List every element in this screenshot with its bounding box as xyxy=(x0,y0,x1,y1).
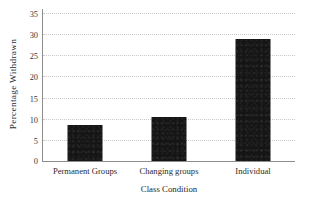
bar-changing-groups[interactable] xyxy=(152,117,187,161)
x-tick-label-changing-groups: Changing groups xyxy=(127,166,211,176)
y-tick-label-0: 0 xyxy=(34,157,38,166)
x-tick-label-individual: Individual xyxy=(211,166,295,176)
y-axis-title: Percentage Withdrawn xyxy=(4,0,22,168)
bars-layer xyxy=(43,13,295,161)
y-tick-label-20: 20 xyxy=(30,73,38,82)
x-tick-label-permanent-groups: Permanent Groups xyxy=(43,166,127,176)
y-tick-label-15: 15 xyxy=(30,94,38,103)
y-tick-label-10: 10 xyxy=(30,115,38,124)
y-tick-label-35: 35 xyxy=(30,10,38,19)
x-tick-labels: Permanent Groups Changing groups Individ… xyxy=(43,166,295,180)
bar-slot-individual xyxy=(211,13,295,161)
y-tick-label-25: 25 xyxy=(30,52,38,61)
bar-slot-permanent-groups xyxy=(43,13,127,161)
bar-chart: Percentage Withdrawn 35 30 25 20 15 10 5… xyxy=(0,0,314,206)
x-axis-line xyxy=(42,161,295,162)
y-axis-title-text: Percentage Withdrawn xyxy=(8,39,18,129)
y-tick-label-30: 30 xyxy=(30,31,38,40)
y-tick-label-5: 5 xyxy=(34,136,38,145)
plot-area: 35 30 25 20 15 10 5 0 xyxy=(43,13,295,161)
bar-individual[interactable] xyxy=(236,39,271,161)
bar-permanent-groups[interactable] xyxy=(68,125,103,161)
bar-slot-changing-groups xyxy=(127,13,211,161)
x-axis-title: Class Condition xyxy=(43,184,295,194)
